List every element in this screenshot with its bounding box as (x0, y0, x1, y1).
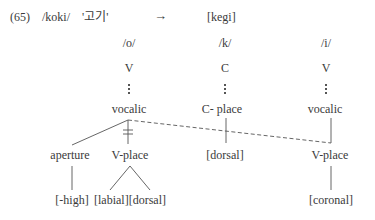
branch-vplace-labial (110, 166, 130, 190)
feature-labial-dorsal: [labial][dorsal] (94, 193, 166, 207)
feature-high: [-high] (55, 193, 88, 207)
node-aperture: aperture (50, 148, 89, 162)
feature-dorsal-k: [dorsal] (206, 148, 243, 162)
tree-lines (0, 0, 375, 220)
feature-coronal: [coronal] (309, 193, 353, 207)
branch-vplace-dorsal (130, 166, 150, 190)
node-vplace-i: V-place (312, 148, 349, 162)
branch-vocalic-aperture (72, 120, 128, 145)
spreading-dashed-line (128, 120, 331, 143)
node-vplace-o: V-place (112, 148, 149, 162)
